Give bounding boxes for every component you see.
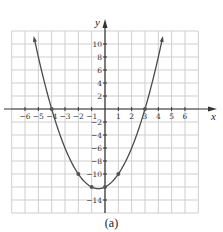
x-tick-label: 1 bbox=[116, 112, 121, 121]
data-point bbox=[116, 172, 120, 176]
y-tick-label: 2 bbox=[97, 92, 102, 101]
figure-caption: (a) bbox=[0, 216, 223, 231]
x-tick-label: 6 bbox=[183, 112, 188, 121]
data-point bbox=[90, 185, 94, 189]
y-tick-label: −14 bbox=[86, 196, 102, 205]
data-point bbox=[76, 172, 80, 176]
curve-arrow-icon bbox=[33, 36, 37, 42]
y-tick-label: −10 bbox=[86, 170, 102, 179]
y-tick-label: 4 bbox=[97, 79, 102, 88]
x-tick-label: −5 bbox=[33, 112, 44, 121]
parabola-chart: −6−5−4−3−2−1123456108642−2−4−6−8−10−14 x… bbox=[0, 0, 223, 232]
x-axis-label: x bbox=[210, 110, 216, 122]
x-tick-label: 2 bbox=[129, 112, 134, 121]
x-tick-label: 4 bbox=[156, 112, 161, 121]
x-tick-label: −6 bbox=[19, 112, 30, 121]
x-tick-label: −2 bbox=[73, 112, 84, 121]
x-tick-label: −3 bbox=[59, 112, 70, 121]
y-tick-label: 6 bbox=[97, 66, 102, 75]
y-tick-label: 8 bbox=[97, 53, 102, 62]
data-point bbox=[143, 107, 147, 111]
data-point bbox=[50, 107, 54, 111]
data-point bbox=[103, 185, 107, 189]
y-tick-label: −4 bbox=[91, 131, 102, 140]
curve-arrow-icon bbox=[160, 36, 164, 42]
y-axis-arrow-icon bbox=[103, 19, 108, 28]
y-tick-label: 10 bbox=[92, 40, 102, 49]
y-tick-label: −6 bbox=[91, 144, 102, 153]
x-tick-label: −4 bbox=[46, 112, 57, 121]
y-tick-label: −8 bbox=[91, 157, 102, 166]
y-tick-label: −2 bbox=[91, 118, 102, 127]
x-tick-label: 5 bbox=[169, 112, 174, 121]
y-axis-label: y bbox=[94, 16, 100, 28]
